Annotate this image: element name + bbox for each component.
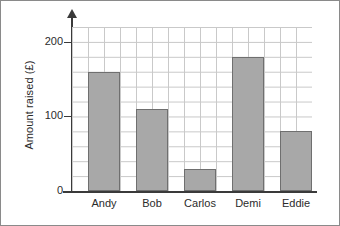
bar-bob — [136, 109, 168, 191]
bar-carlos — [184, 169, 216, 191]
bar-andy — [88, 72, 120, 191]
y-tick-mark-100 — [64, 116, 72, 117]
y-tick-mark-200 — [64, 42, 72, 43]
y-tick-label-0: 0 — [23, 184, 63, 196]
y-axis-arrow-icon — [67, 9, 77, 18]
y-tick-mark-0 — [64, 191, 72, 192]
x-axis-label-eddie: Eddie — [266, 197, 326, 209]
bar-demi — [232, 57, 264, 191]
plot-area — [72, 27, 312, 191]
x-axis-line — [63, 191, 317, 193]
bars-layer — [72, 27, 312, 191]
bar-eddie — [280, 131, 312, 191]
bar-chart-figure: Amount raised (£) 0100200 AndyBobCarlosD… — [0, 0, 340, 226]
y-tick-label-100: 100 — [23, 109, 63, 121]
y-tick-label-200: 200 — [23, 35, 63, 47]
